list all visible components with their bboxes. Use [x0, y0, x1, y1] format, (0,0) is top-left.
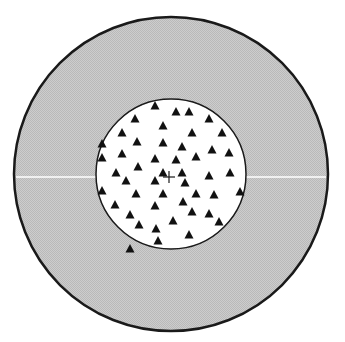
target-diagram	[0, 0, 345, 342]
